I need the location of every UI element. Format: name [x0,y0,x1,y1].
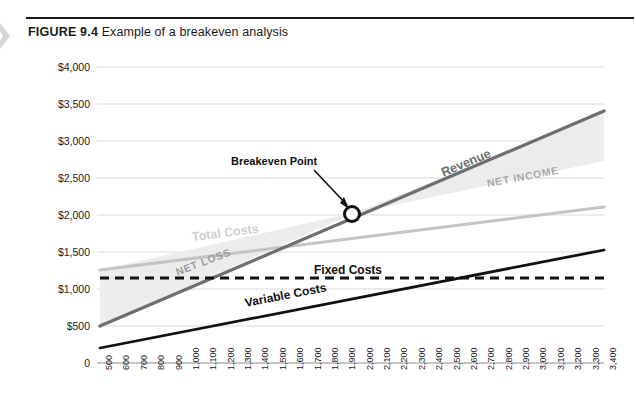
x-tick-label: 1,600 [295,347,305,370]
x-tick-label: 2,400 [434,347,444,370]
x-tick-label: 3,200 [573,347,583,370]
x-tick-label: 2,900 [521,347,531,370]
x-tick-label: 2,200 [399,347,409,370]
chart-plot-area: $4,000 $3,500 $3,000 $2,500 $2,000 $1,50… [0,0,636,411]
x-tick-label: 800 [156,355,166,370]
x-tick-label: 2,000 [365,347,375,370]
series-label-fixed-costs: Fixed Costs [314,263,382,277]
x-tick-label: 1,400 [260,347,270,370]
x-tick-label: 1,200 [226,347,236,370]
x-tick-label: 600 [121,355,131,370]
x-tick-label: 2,300 [417,347,427,370]
x-tick-label: 1,700 [313,347,323,370]
x-tick-label: 1,800 [330,347,340,370]
figure-page: FIGURE 9.4 Example of a breakeven analys… [0,0,636,411]
x-tick-label: 2,600 [469,347,479,370]
x-tick-label: 1,000 [191,347,201,370]
x-tick-label: 1,300 [243,347,253,370]
x-tick-label: 2,100 [382,347,392,370]
x-tick-label: 3,300 [591,347,601,370]
x-tick-label: 3,100 [556,347,566,370]
x-tick-label: 3,400 [608,347,618,370]
x-tick-label: 1,500 [278,347,288,370]
x-tick-label: 2,700 [486,347,496,370]
breakeven-arrow-shaft [314,170,347,205]
x-tick-label: 1,900 [347,347,357,370]
x-tick-label: 500 [104,355,114,370]
x-tick-label: 2,500 [452,347,462,370]
breakeven-point-marker [345,207,360,222]
breakeven-point-label: Breakeven Point [231,155,317,167]
x-tick-label: 3,000 [538,347,548,370]
x-tick-label: 1,100 [208,347,218,370]
x-tick-label: 700 [139,355,149,370]
x-tick-label: 900 [174,355,184,370]
x-tick-label: 2,800 [504,347,514,370]
